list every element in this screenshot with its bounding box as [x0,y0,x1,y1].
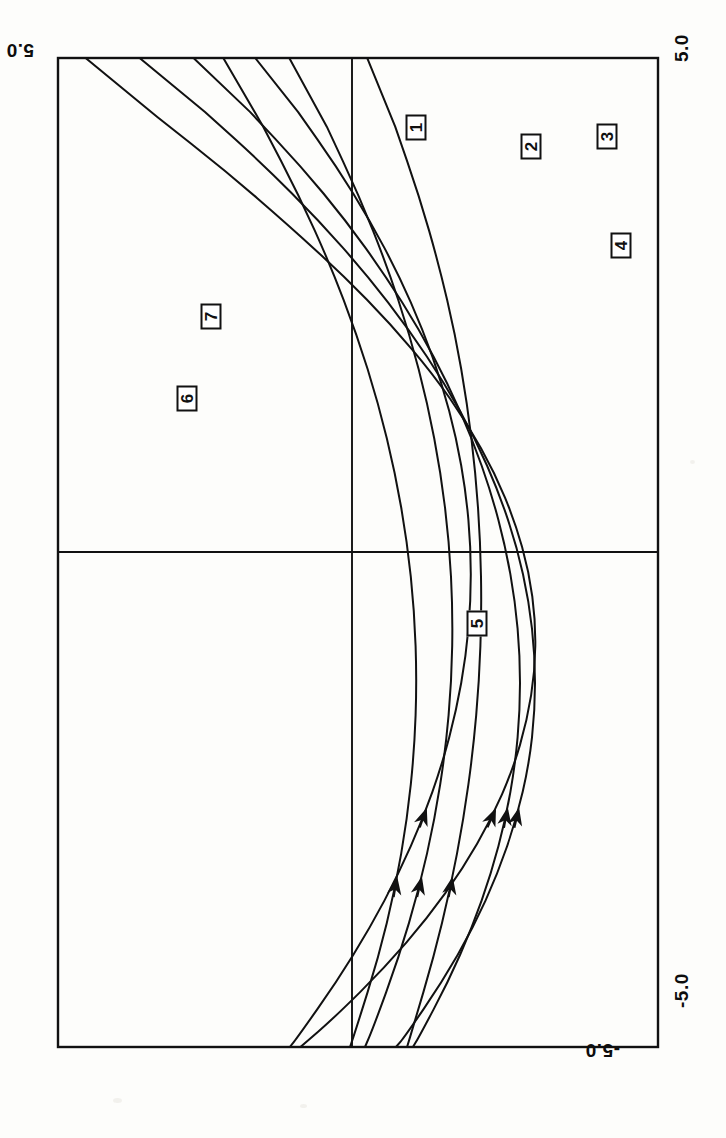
axis-label-y-max: 5.0 [6,41,34,60]
arrowhead-4 [420,811,426,828]
curve-label-7: 7 [201,304,222,330]
phase-portrait-plot [0,0,726,1138]
scan-speck [690,460,695,464]
arrowhead-1 [488,811,495,828]
curve-label-4: 4 [611,233,632,259]
curve-label-2: 2 [521,134,542,160]
curve-label-6: 6 [177,386,198,412]
axis-label-x-min: -5.0 [672,973,691,1008]
axis-label-x-max: 5.0 [672,34,691,62]
scan-speck [300,1104,307,1108]
axis-cross [58,58,658,1047]
curve-label-3: 3 [597,124,618,150]
scanned-figure-page: 5.0 5.0 -5.0 -5.0 1 2 3 4 5 6 7 [0,0,726,1138]
curve-label-5: 5 [467,611,488,637]
scan-speck [113,1098,122,1103]
axis-label-y-min: -5.0 [585,1041,620,1060]
curve-label-1: 1 [406,115,427,141]
